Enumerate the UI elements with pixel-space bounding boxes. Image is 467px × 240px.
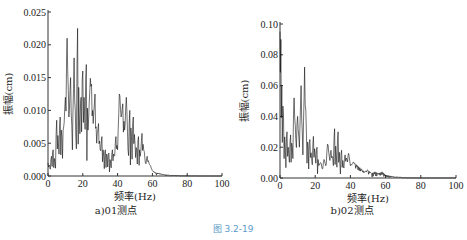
y-tick-label: 0.04: [261, 111, 279, 122]
panel-caption-a: a)01测点: [95, 204, 138, 216]
x-tick-label: 0: [46, 178, 51, 189]
x-tick-label: 100: [215, 178, 230, 189]
x-tick-label: 40: [345, 180, 355, 191]
figure-caption: 图 3.2-19: [213, 224, 254, 234]
y-tick-label: 0.08: [261, 49, 279, 60]
x-tick-label: 40: [113, 178, 123, 189]
x-axis-label: 频率(Hz): [114, 190, 156, 202]
x-tick-label: 60: [381, 180, 391, 191]
y-tick-label: 0.10: [261, 19, 279, 30]
x-tick-label: 20: [310, 180, 320, 191]
y-tick-label: 0.06: [261, 80, 279, 91]
figure-canvas: 0204060801000.0000.0050.0100.0150.0200.0…: [0, 0, 467, 240]
x-tick-label: 60: [147, 178, 157, 189]
chart-02: 0204060801000.000.020.040.060.080.10频率(H…: [238, 19, 464, 205]
y-axis-label: 振幅(cm): [238, 79, 250, 122]
x-axis-label: 频率(Hz): [347, 192, 389, 204]
x-tick-label: 100: [449, 180, 464, 191]
y-tick-label: 0.020: [24, 39, 47, 50]
y-axis-label: 振幅(cm): [2, 72, 14, 115]
y-tick-label: 0.005: [24, 138, 47, 149]
x-tick-label: 20: [78, 178, 88, 189]
x-tick-label: 80: [416, 180, 426, 191]
x-tick-label: 80: [182, 178, 192, 189]
y-tick-label: 0.02: [261, 142, 279, 153]
y-tick-label: 0.025: [24, 7, 47, 18]
panel-caption-b: b)02测点: [330, 204, 373, 216]
series-line: [48, 28, 222, 176]
chart-01: 0204060801000.0000.0050.0100.0150.0200.0…: [2, 7, 230, 203]
x-tick-label: 0: [278, 180, 283, 191]
y-tick-label: 0.000: [24, 171, 47, 182]
series-line: [280, 32, 456, 178]
y-tick-label: 0.015: [24, 72, 47, 83]
y-tick-label: 0.010: [24, 105, 47, 116]
y-tick-label: 0.00: [261, 173, 279, 184]
